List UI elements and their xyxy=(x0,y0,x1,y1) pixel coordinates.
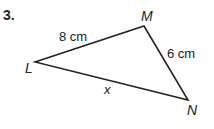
vertex-label-m: M xyxy=(141,8,153,24)
side-label-ln: x xyxy=(103,82,111,97)
side-label-mn: 6 cm xyxy=(167,46,195,61)
triangle-diagram: L M N 8 cm 6 cm x xyxy=(0,0,214,129)
triangle-lmn xyxy=(35,26,188,100)
vertex-label-l: L xyxy=(25,60,33,76)
vertex-label-n: N xyxy=(187,102,198,118)
side-label-lm: 8 cm xyxy=(59,29,87,44)
